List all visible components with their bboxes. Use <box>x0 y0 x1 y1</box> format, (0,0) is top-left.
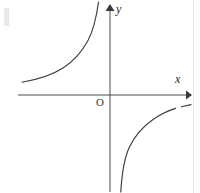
x-axis-label: x <box>175 73 180 85</box>
hyperbola-branch-quadrant-4-tail <box>182 105 192 107</box>
hyperbola-branch-quadrant-4 <box>121 108 176 192</box>
hyperbola-branch-quadrant-2 <box>22 2 99 82</box>
origin-label: O <box>96 97 104 108</box>
math-figure: y x O <box>0 0 200 193</box>
y-axis-arrow-icon <box>106 4 115 11</box>
y-axis-label: y <box>116 3 121 15</box>
x-axis-arrow-icon <box>186 91 192 100</box>
